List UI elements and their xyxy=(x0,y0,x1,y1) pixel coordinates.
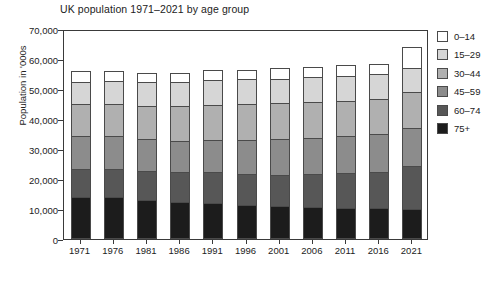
bar-segment-4559[interactable] xyxy=(71,136,91,169)
bar-segment-4559[interactable] xyxy=(369,134,389,172)
x-axis-tick-mark xyxy=(246,240,247,244)
bar-1986[interactable] xyxy=(170,73,190,240)
bar-1976[interactable] xyxy=(104,71,124,239)
bar-segment-1529[interactable] xyxy=(71,82,91,105)
legend-swatch-icon xyxy=(437,31,448,42)
bar-segment-014[interactable] xyxy=(170,73,190,82)
bar-segment-014[interactable] xyxy=(369,64,389,75)
bar-segment-75+[interactable] xyxy=(137,200,157,239)
legend-item[interactable]: 0–14 xyxy=(437,27,480,46)
bar-segment-3044[interactable] xyxy=(170,106,190,141)
x-axis-tick-mark xyxy=(113,240,114,244)
bar-segment-75+[interactable] xyxy=(369,208,389,239)
bar-segment-6074[interactable] xyxy=(104,169,124,198)
bar-segment-4559[interactable] xyxy=(303,138,323,174)
bar-segment-3044[interactable] xyxy=(203,105,223,140)
bar-segment-1529[interactable] xyxy=(137,82,157,106)
plot-area xyxy=(63,30,428,240)
bar-segment-1529[interactable] xyxy=(303,77,323,102)
bar-segment-1529[interactable] xyxy=(336,76,356,102)
bar-1996[interactable] xyxy=(237,70,257,240)
bar-segment-3044[interactable] xyxy=(71,104,91,136)
bar-segment-3044[interactable] xyxy=(104,104,124,136)
legend-swatch-icon xyxy=(437,86,448,97)
legend-item[interactable]: 60–74 xyxy=(437,101,480,120)
y-axis-tick-label: 50,000 xyxy=(29,85,58,96)
bar-segment-4559[interactable] xyxy=(336,136,356,173)
x-axis-tick-mark xyxy=(312,240,313,244)
bar-segment-1529[interactable] xyxy=(402,68,422,92)
x-axis-tick-label: 1976 xyxy=(102,245,123,256)
bar-segment-014[interactable] xyxy=(336,65,356,76)
bar-segment-3044[interactable] xyxy=(137,106,157,140)
bar-2011[interactable] xyxy=(336,65,356,239)
legend-item[interactable]: 30–44 xyxy=(437,64,480,83)
y-axis-tick-label: 20,000 xyxy=(29,175,58,186)
bar-segment-75+[interactable] xyxy=(303,207,323,239)
bar-segment-1529[interactable] xyxy=(270,79,290,103)
bar-segment-1529[interactable] xyxy=(369,74,389,99)
bar-segment-014[interactable] xyxy=(104,71,124,81)
bar-segment-6074[interactable] xyxy=(303,174,323,207)
bar-segment-014[interactable] xyxy=(203,70,223,80)
bar-segment-6074[interactable] xyxy=(203,172,223,203)
legend-item[interactable]: 15–29 xyxy=(437,46,480,65)
bar-segment-4559[interactable] xyxy=(137,139,157,171)
bar-segment-75+[interactable] xyxy=(336,208,356,240)
bar-segment-75+[interactable] xyxy=(402,209,422,239)
bar-segment-75+[interactable] xyxy=(270,206,290,239)
x-axis-tick-mark xyxy=(179,240,180,244)
x-axis-tick-label: 2016 xyxy=(368,245,389,256)
bar-segment-014[interactable] xyxy=(270,68,290,79)
y-axis-tick-mark xyxy=(58,240,63,241)
bar-segment-75+[interactable] xyxy=(170,202,190,240)
bar-1991[interactable] xyxy=(203,70,223,240)
bar-segment-1529[interactable] xyxy=(237,79,257,104)
bar-segment-4559[interactable] xyxy=(402,128,422,166)
x-axis-tick-label: 1991 xyxy=(202,245,223,256)
legend-item[interactable]: 45–59 xyxy=(437,83,480,102)
bar-segment-6074[interactable] xyxy=(270,175,290,207)
bar-segment-6074[interactable] xyxy=(137,171,157,200)
y-axis-tick-label: 70,000 xyxy=(29,25,58,36)
bar-segment-1529[interactable] xyxy=(170,82,190,107)
bar-segment-6074[interactable] xyxy=(71,169,91,198)
bar-segment-6074[interactable] xyxy=(237,174,257,205)
bar-2016[interactable] xyxy=(369,64,389,240)
bar-1971[interactable] xyxy=(71,71,91,239)
bar-segment-1529[interactable] xyxy=(203,80,223,105)
bar-segment-014[interactable] xyxy=(237,70,257,80)
bar-segment-6074[interactable] xyxy=(402,166,422,210)
bar-segment-4559[interactable] xyxy=(237,140,257,174)
bar-segment-6074[interactable] xyxy=(336,173,356,208)
bar-segment-3044[interactable] xyxy=(237,104,257,140)
bar-segment-3044[interactable] xyxy=(336,101,356,136)
x-axis-tick-mark xyxy=(411,240,412,244)
bar-segment-3044[interactable] xyxy=(270,103,290,140)
legend-item[interactable]: 75+ xyxy=(437,120,480,139)
bar-segment-75+[interactable] xyxy=(203,203,223,239)
bar-segment-4559[interactable] xyxy=(104,136,124,168)
bar-segment-75+[interactable] xyxy=(71,197,91,239)
bar-segment-3044[interactable] xyxy=(369,99,389,134)
legend-label: 75+ xyxy=(454,123,470,134)
bar-segment-75+[interactable] xyxy=(237,205,257,240)
bar-segment-6074[interactable] xyxy=(170,172,190,202)
bar-segment-014[interactable] xyxy=(303,67,323,78)
bar-segment-4559[interactable] xyxy=(170,141,190,172)
bar-segment-014[interactable] xyxy=(71,71,91,82)
bar-segment-4559[interactable] xyxy=(203,140,223,172)
bar-2021[interactable] xyxy=(402,47,422,239)
bar-1981[interactable] xyxy=(137,73,157,240)
bar-segment-4559[interactable] xyxy=(270,139,290,174)
bar-segment-75+[interactable] xyxy=(104,197,124,239)
bar-segment-6074[interactable] xyxy=(369,172,389,209)
bar-2001[interactable] xyxy=(270,68,290,239)
bar-2006[interactable] xyxy=(303,67,323,240)
bar-segment-1529[interactable] xyxy=(104,81,124,104)
bar-segment-014[interactable] xyxy=(137,73,157,82)
bar-segment-014[interactable] xyxy=(402,47,422,68)
bar-segment-3044[interactable] xyxy=(402,92,422,128)
x-axis-tick-label: 1981 xyxy=(135,245,156,256)
bar-segment-3044[interactable] xyxy=(303,102,323,138)
